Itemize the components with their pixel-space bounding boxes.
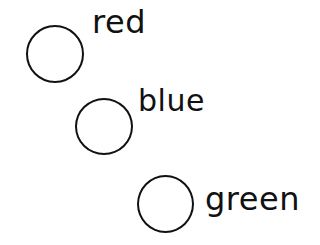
- label-red: red: [92, 6, 146, 38]
- radio-circle-green[interactable]: [137, 175, 194, 233]
- radio-circle-blue[interactable]: [75, 98, 133, 155]
- radio-circle-red[interactable]: [26, 25, 84, 83]
- label-green: green: [205, 183, 300, 215]
- label-blue: blue: [138, 86, 205, 116]
